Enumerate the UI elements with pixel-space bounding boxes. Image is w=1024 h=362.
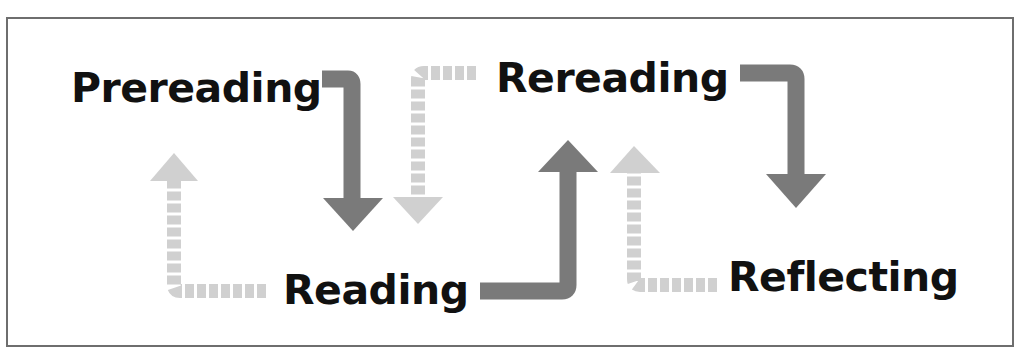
- arrow-reflecting-to-rereading-icon: [634, 172, 717, 285]
- stage-rereading-label: Rereading: [496, 58, 729, 99]
- arrow-rereading-to-reading-icon: [418, 73, 476, 196]
- arrowhead-up-icon: [538, 140, 598, 172]
- arrowhead-down-icon: [323, 198, 383, 231]
- stage-reading-label: Reading: [283, 270, 468, 311]
- arrowhead-up-icon: [610, 146, 660, 173]
- arrow-reading-to-prereading-icon: [174, 180, 266, 291]
- stage-reflecting-label: Reflecting: [728, 257, 959, 298]
- arrowhead-up-icon: [150, 153, 198, 181]
- arrow-rereading-to-reflecting-icon: [740, 73, 796, 176]
- arrowhead-down-icon: [393, 197, 443, 224]
- arrow-reading-to-rereading-icon: [480, 170, 568, 291]
- arrow-prereading-to-reading-icon: [322, 79, 352, 200]
- stage-prereading-label: Prereading: [71, 68, 322, 109]
- arrowhead-down-icon: [766, 174, 826, 208]
